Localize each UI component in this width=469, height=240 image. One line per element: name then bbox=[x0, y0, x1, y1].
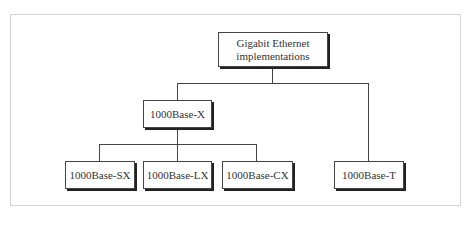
node-1000base-t: 1000Base-T bbox=[334, 161, 404, 189]
node-gigabit-ethernet: Gigabit Ethernet implementations bbox=[218, 32, 328, 67]
node-1000base-x: 1000Base-X bbox=[143, 100, 212, 128]
node-label: 1000Base-CX bbox=[226, 169, 288, 182]
connector-root-down bbox=[272, 67, 273, 83]
connector-level1-horizontal bbox=[177, 83, 369, 84]
connector-to-lx bbox=[177, 144, 178, 161]
node-label: 1000Base-T bbox=[342, 169, 396, 182]
connector-x-down bbox=[177, 128, 178, 144]
connector-to-cx bbox=[256, 144, 257, 161]
node-1000base-lx: 1000Base-LX bbox=[143, 161, 212, 189]
connector-to-1000base-x bbox=[177, 83, 178, 100]
node-label: 1000Base-LX bbox=[147, 169, 209, 182]
connector-to-1000base-t bbox=[368, 83, 369, 161]
node-label-line1: Gigabit Ethernet bbox=[236, 37, 309, 50]
node-label-line2: implementations bbox=[236, 50, 309, 63]
node-1000base-cx: 1000Base-CX bbox=[222, 161, 293, 189]
connector-level2-horizontal bbox=[99, 144, 257, 145]
connector-to-sx bbox=[99, 144, 100, 161]
node-label: 1000Base-SX bbox=[69, 169, 130, 182]
node-1000base-sx: 1000Base-SX bbox=[65, 161, 135, 189]
node-label: 1000Base-X bbox=[150, 108, 205, 121]
